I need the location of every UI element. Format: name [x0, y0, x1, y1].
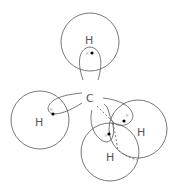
hydrogen-label-right: H	[137, 126, 145, 139]
c-lobe-back-dashed	[97, 106, 137, 160]
hydrogen-label-left: H	[35, 116, 43, 129]
hydrogen-label-bottom: H	[106, 151, 114, 164]
hydrogen-label-top: H	[85, 34, 93, 47]
electron-cross-left: ×	[49, 106, 53, 112]
electron-cross-right: ×	[125, 112, 129, 118]
electron-cross-bottom: ×	[104, 132, 108, 138]
c-lobe-top	[79, 47, 100, 80]
electron-dot-right	[122, 119, 125, 122]
electron-cross-top: ×	[85, 50, 89, 56]
electron-dot-left	[51, 112, 54, 115]
electron-dot-top	[90, 51, 93, 54]
carbon-label: C	[86, 92, 94, 105]
methane-orbital-diagram: C H H H H × × × ×	[0, 0, 180, 188]
